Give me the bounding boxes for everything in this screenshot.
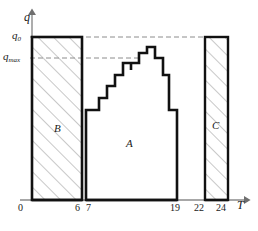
x-tick-6: 6: [75, 203, 80, 213]
x-tick-7: 7: [86, 203, 91, 213]
figure-canvas: [0, 0, 258, 231]
y-tick-qmax: qmax: [3, 51, 20, 62]
x-tick-22: 22: [194, 203, 204, 213]
x-tick-24: 24: [216, 203, 226, 213]
region-B-fill: [32, 37, 82, 200]
region-A-outline: [86, 47, 177, 200]
region-A: [86, 47, 177, 200]
y-tick-q0-sub: 0: [18, 35, 22, 43]
region-B: [32, 37, 82, 200]
region-label-C: C: [212, 120, 219, 131]
y-axis-label: q: [24, 11, 30, 23]
x-axis-label: T: [237, 199, 244, 211]
region-label-A: A: [126, 138, 133, 149]
y-tick-q0: q0: [12, 30, 21, 41]
y-tick-q0-main: q: [12, 29, 18, 41]
y-tick-qmax-sub: max: [9, 56, 21, 64]
x-tick-0: 0: [18, 203, 23, 213]
region-label-B: B: [54, 123, 61, 134]
y-tick-qmax-main: q: [3, 50, 9, 62]
x-tick-19: 19: [170, 203, 180, 213]
